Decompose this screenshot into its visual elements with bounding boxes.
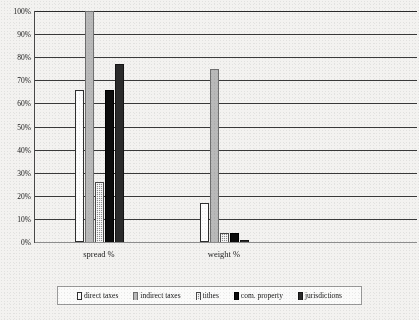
legend-label: com. property xyxy=(241,292,283,300)
legend-label: direct taxes xyxy=(84,292,118,300)
chart-legend: direct taxesindirect taxestithescom. pro… xyxy=(57,286,362,305)
y-axis-tick-label: 20% xyxy=(17,191,31,200)
bar-group xyxy=(200,11,249,242)
bar xyxy=(240,240,249,242)
category-label: spread % xyxy=(83,249,114,259)
legend-label: jurisdictions xyxy=(305,292,342,300)
legend-swatch-icon xyxy=(298,292,303,300)
gridline xyxy=(34,242,417,243)
legend-swatch-icon xyxy=(133,292,138,300)
bar xyxy=(115,64,124,242)
bar xyxy=(85,11,94,242)
y-axis: 0%10%20%30%40%50%60%70%80%90%100% xyxy=(0,0,33,252)
category-label: weight % xyxy=(208,249,240,259)
bar xyxy=(210,69,219,242)
legend-item: indirect taxes xyxy=(133,292,180,300)
bar xyxy=(230,233,239,242)
y-axis-tick-label: 90% xyxy=(17,30,31,39)
plot-wrapper: 0%10%20%30%40%50%60%70%80%90%100% spread… xyxy=(0,0,419,268)
y-axis-tick-label: 100% xyxy=(14,7,32,16)
y-axis-tick-label: 60% xyxy=(17,99,31,108)
bar xyxy=(220,233,229,242)
bar xyxy=(75,90,84,242)
legend-label: tithes xyxy=(203,292,219,300)
legend-item: tithes xyxy=(196,292,219,300)
bar-chart: 0%10%20%30%40%50%60%70%80%90%100% spread… xyxy=(0,0,419,320)
y-axis-tick-label: 40% xyxy=(17,145,31,154)
legend-label: indirect taxes xyxy=(140,292,180,300)
y-axis-tick-label: 70% xyxy=(17,76,31,85)
y-axis-tick-label: 10% xyxy=(17,214,31,223)
y-axis-tick-label: 30% xyxy=(17,168,31,177)
bar xyxy=(200,203,209,242)
legend-swatch-icon xyxy=(77,292,82,300)
legend-item: com. property xyxy=(234,292,283,300)
bar xyxy=(105,90,114,242)
bar xyxy=(95,182,104,242)
y-axis-tick-label: 50% xyxy=(17,122,31,131)
bars-layer xyxy=(34,11,417,242)
legend-item: jurisdictions xyxy=(298,292,342,300)
category-axis-labels: spread %weight % xyxy=(34,249,417,267)
legend-swatch-icon xyxy=(196,292,201,300)
bar-group xyxy=(75,11,124,242)
y-axis-tick-label: 0% xyxy=(21,238,31,247)
legend-swatch-icon xyxy=(234,292,239,300)
legend-item: direct taxes xyxy=(77,292,118,300)
y-axis-tick-label: 80% xyxy=(17,53,31,62)
